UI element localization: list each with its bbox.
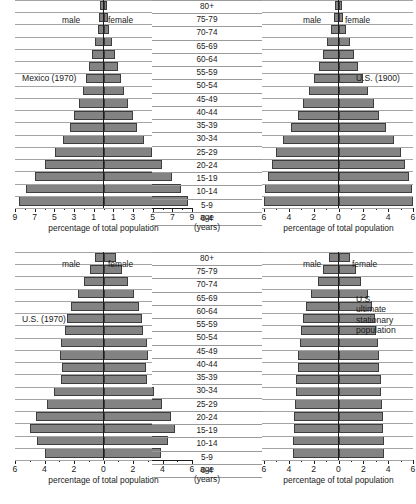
bar-female-30-34 (104, 375, 148, 384)
bar-male-35-39 (62, 363, 103, 372)
center-axis-line (103, 252, 104, 460)
axis-tick-label: 4 (386, 212, 391, 222)
chart-title-line-0: U.S. (356, 294, 416, 304)
bar-female-40-44 (104, 98, 129, 107)
axis-minor-tick (143, 208, 144, 210)
bar-female-50-54 (104, 326, 144, 335)
age-group-label-55-59: 55-59 (152, 319, 262, 332)
axis-tick-label: 4 (286, 212, 291, 222)
age-group-label-40-44: 40-44 (152, 359, 262, 372)
age-group-column-bottom: 80+75-7970-7465-6960-6455-5950-5445-4940… (152, 252, 262, 460)
age-group-label-40-44: 40-44 (152, 107, 262, 120)
chart-title-us-1900: U.S. (1900) (356, 73, 400, 83)
age-caption-line1: age (152, 212, 262, 222)
chart-title-line-2: stationary (356, 315, 416, 325)
axis-minor-tick (276, 208, 277, 210)
bar-male-75-79 (90, 265, 104, 274)
axis-minor-tick (148, 460, 149, 462)
axis-minor-tick (264, 460, 265, 462)
bar-male-25-29 (63, 135, 103, 144)
x-axis-caption: percentage of total population (283, 475, 393, 485)
axis-minor-tick (289, 208, 290, 210)
center-axis-line (103, 0, 104, 208)
chart-title-mexico-1970: Mexico (1970) (22, 73, 76, 83)
axis-minor-tick (388, 460, 389, 462)
bar-female-30-34 (104, 123, 137, 132)
center-axis-line (338, 252, 339, 460)
bar-female-60-64 (104, 302, 139, 311)
age-group-label-30-34: 30-34 (152, 385, 262, 398)
axis-minor-tick (388, 208, 389, 210)
bar-male-35-39 (74, 111, 104, 120)
bar-female-70-74 (339, 25, 346, 34)
bar-male-45-49 (300, 338, 338, 347)
age-group-label-20-24: 20-24 (152, 160, 262, 173)
axis-tick-label: 6 (262, 464, 267, 474)
axis-minor-tick (15, 460, 16, 462)
age-group-label-80+: 80+ (152, 0, 262, 14)
axis-minor-tick (94, 208, 95, 210)
age-group-label-70-74: 70-74 (152, 27, 262, 40)
legend-male-us-ultimate: male (303, 259, 321, 269)
axis-minor-tick (339, 460, 340, 462)
legend-female-us-1970: female (108, 259, 133, 269)
chart-title-us-ultimate-stationary: U.S.ultimatestationarypopulation (356, 294, 416, 336)
bar-female-50-54 (104, 74, 122, 83)
bar-female-25-29 (104, 387, 154, 396)
bar-male-0-4 (19, 196, 104, 205)
axis-tick-label: 3 (131, 212, 136, 222)
bar-male-35-39 (298, 363, 339, 372)
bar-male-20-24 (47, 399, 104, 408)
age-group-label-45-49: 45-49 (152, 346, 262, 359)
bar-male-20-24 (295, 399, 338, 408)
bar-male-45-49 (83, 86, 104, 95)
axis-minor-tick (351, 208, 352, 210)
bar-female-0-4 (339, 448, 385, 457)
bar-male-65-69 (311, 289, 339, 298)
axis-minor-tick (326, 208, 327, 210)
age-group-label-60-64: 60-64 (152, 306, 262, 319)
bar-male-60-64 (323, 50, 339, 59)
bar-male-70-74 (84, 277, 104, 286)
axis-minor-tick (172, 208, 173, 210)
axis-minor-tick (351, 460, 352, 462)
bar-male-65-69 (327, 37, 338, 46)
age-group-label-30-34: 30-34 (152, 133, 262, 146)
axis-minor-tick (192, 460, 193, 462)
bar-female-70-74 (104, 277, 128, 286)
axis-tick-label: 2 (311, 464, 316, 474)
axis-tick-label: 1 (91, 212, 96, 222)
age-group-label-50-54: 50-54 (152, 332, 262, 345)
legend-male-us-1900: male (303, 15, 321, 25)
bar-female-40-44 (104, 350, 148, 359)
axis-minor-tick (133, 460, 134, 462)
age-group-label-45-49: 45-49 (152, 94, 262, 107)
axis-minor-tick (45, 208, 46, 210)
chart-title-line-1: ultimate (356, 304, 416, 314)
axis-tick-label: 7 (32, 212, 37, 222)
bar-male-15-19 (45, 160, 103, 169)
age-group-label-10-14: 10-14 (152, 186, 262, 199)
bar-male-0-4 (293, 448, 339, 457)
axis-minor-tick (314, 460, 315, 462)
age-group-label-60-64: 60-64 (152, 54, 262, 67)
bar-male-15-19 (272, 160, 338, 169)
legend-female-mexico: female (108, 15, 133, 25)
axis-tick-label: 2 (361, 212, 366, 222)
bar-male-5-9 (293, 436, 338, 445)
age-group-label-65-69: 65-69 (152, 41, 262, 54)
pyramid-us-ultimate-stationary (264, 252, 413, 460)
bar-female-30-34 (339, 123, 387, 132)
axis-minor-tick (182, 208, 183, 210)
bar-female-60-64 (339, 50, 355, 59)
age-caption-line2: (years) (152, 222, 262, 232)
x-axis-caption: percentage of total population (48, 223, 158, 233)
bar-male-0-4 (264, 196, 339, 205)
bar-male-10-14 (294, 424, 339, 433)
legend-male-mexico: male (62, 15, 80, 25)
axis-minor-tick (301, 208, 302, 210)
bar-female-55-59 (104, 62, 119, 71)
bar-male-50-54 (65, 326, 103, 335)
bar-female-25-29 (104, 135, 144, 144)
axis-minor-tick (89, 460, 90, 462)
